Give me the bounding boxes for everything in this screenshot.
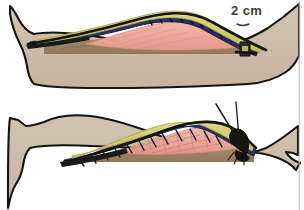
figure-illustration (0, 0, 304, 210)
measurement-label-2cm: 2 cm (231, 4, 262, 17)
surgical-flap-figure: 2 cm (0, 0, 304, 210)
lower-panel (8, 102, 300, 208)
